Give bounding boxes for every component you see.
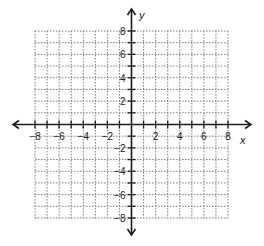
y-tick-label: 2 <box>120 96 126 107</box>
y-tick-label: −2 <box>114 143 126 154</box>
x-tick-label: 6 <box>201 131 207 142</box>
y-tick-label: 8 <box>120 26 126 37</box>
x-tick-label: 2 <box>153 131 159 142</box>
coordinate-plane: −8−6−4−224688642−2−4−6−8 x y <box>0 0 264 246</box>
y-tick-label: −6 <box>114 190 126 201</box>
x-tick-label: −4 <box>78 131 90 142</box>
y-tick-label: 6 <box>120 49 126 60</box>
x-axis-label: x <box>239 134 246 146</box>
y-tick-label: −8 <box>114 213 126 224</box>
x-tick-label: −8 <box>29 131 41 142</box>
x-tick-label: −6 <box>53 131 65 142</box>
x-tick-label: −2 <box>102 131 114 142</box>
y-tick-label: 4 <box>120 73 126 84</box>
y-axis-label: y <box>138 9 146 21</box>
y-tick-label: −4 <box>114 166 126 177</box>
x-tick-label: 8 <box>225 131 231 142</box>
x-tick-label: 4 <box>177 131 183 142</box>
